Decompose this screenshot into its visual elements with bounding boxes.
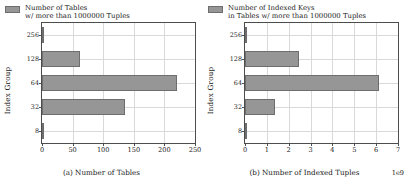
x-tick-label: 200 (158, 146, 171, 154)
x-tick-label: 50 (68, 146, 76, 154)
x-tick-label: 4 (330, 146, 334, 154)
bar (42, 123, 44, 140)
y-tick-label: 8 (35, 127, 39, 135)
x-axis-exponent-b: 1e9 (392, 169, 404, 177)
y-tick-label: 128 (230, 55, 242, 63)
legend-label-a-line2: w/ more than 1000000 Tuples (25, 12, 130, 20)
y-tick-label: 256 (230, 31, 242, 39)
x-tick-label: 1 (265, 146, 269, 154)
legend-swatch-icon (208, 6, 223, 13)
x-tick-label: 3 (308, 146, 312, 154)
bar (245, 99, 275, 116)
y-tick-label: 128 (27, 55, 39, 63)
plot-area-a: 05010015020025083264128256 (41, 22, 196, 144)
legend-b: Number of Indexed Keys in Tables w/ more… (208, 4, 366, 21)
bar (42, 27, 44, 44)
y-gridline (42, 131, 195, 132)
figure-two-panel-bar-charts: Index Group 05010015020025083264128256 N… (0, 0, 406, 181)
caption-b: (b) Number of Indexed Tuples (203, 168, 406, 177)
legend-label-a: Number of Tables w/ more than 1000000 Tu… (25, 4, 130, 21)
y-tick-label: 32 (31, 103, 39, 111)
bar (245, 123, 247, 140)
y-tick-label: 64 (31, 79, 39, 87)
y-tick-mark (242, 131, 245, 132)
bar (245, 75, 379, 92)
bar (42, 75, 177, 92)
y-axis-title-b: Index Group (204, 0, 216, 181)
chart-panel-a: Index Group 05010015020025083264128256 N… (0, 0, 203, 181)
caption-a: (a) Number of Tables (0, 168, 203, 177)
y-tick-label: 32 (234, 103, 242, 111)
legend-label-b-line2: in Tables w/ more than 1000000 Tuples (228, 12, 366, 20)
y-tick-mark (242, 83, 245, 84)
x-tick-label: 7 (396, 146, 400, 154)
x-tick-label: 100 (97, 146, 110, 154)
legend-swatch-icon (5, 6, 20, 13)
y-tick-label: 8 (238, 127, 242, 135)
legend-a: Number of Tables w/ more than 1000000 Tu… (5, 4, 130, 21)
y-gridline (42, 35, 195, 36)
y-tick-mark (39, 59, 42, 60)
legend-label-a-line1: Number of Tables (25, 4, 130, 12)
bar (245, 27, 247, 44)
bar (42, 51, 80, 68)
x-tick-label: 150 (128, 146, 141, 154)
y-axis-title-a: Index Group (1, 0, 13, 181)
y-tick-mark (39, 107, 42, 108)
x-tick-label: 250 (189, 146, 202, 154)
x-tick-label: 0 (40, 146, 44, 154)
y-tick-mark (242, 35, 245, 36)
y-gridline (245, 35, 398, 36)
x-tick-label: 5 (352, 146, 356, 154)
y-tick-mark (242, 107, 245, 108)
x-tick-label: 6 (374, 146, 378, 154)
legend-label-b-line1: Number of Indexed Keys (228, 4, 366, 12)
y-tick-mark (39, 83, 42, 84)
chart-panel-b: Index Group 0123456783264128256 Number o… (203, 0, 406, 181)
bar (42, 99, 125, 116)
y-tick-mark (39, 35, 42, 36)
legend-label-b: Number of Indexed Keys in Tables w/ more… (228, 4, 366, 21)
y-tick-label: 256 (27, 31, 39, 39)
x-tick-label: 0 (243, 146, 247, 154)
y-tick-mark (242, 59, 245, 60)
y-tick-mark (39, 131, 42, 132)
x-tick-label: 2 (287, 146, 291, 154)
plot-area-b: 0123456783264128256 (244, 22, 399, 144)
y-tick-label: 64 (234, 79, 242, 87)
bar (245, 51, 299, 68)
y-gridline (245, 131, 398, 132)
